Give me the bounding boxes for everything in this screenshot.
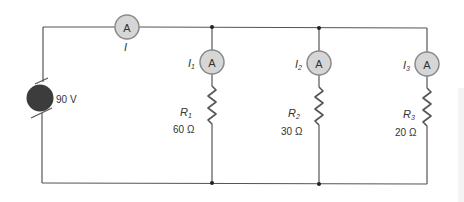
branch-1-ammeter-icon: A bbox=[200, 50, 224, 74]
branch-2-resistor-label: R2 bbox=[288, 107, 300, 120]
branch-1-ammeter-symbol: A bbox=[208, 57, 216, 69]
branch-1-resistor-icon bbox=[208, 86, 216, 124]
branch-3-ammeter-symbol: A bbox=[423, 59, 431, 71]
wires bbox=[42, 27, 427, 184]
branch-3-current-subscript: 3 bbox=[406, 65, 410, 72]
battery-icon bbox=[27, 78, 54, 118]
branch-1-resistor-label: R1 bbox=[180, 106, 192, 119]
branch-3-resistor-subscript: 3 bbox=[411, 114, 415, 121]
branch-2-current-subscript: 2 bbox=[297, 64, 302, 71]
branch-3-resistor-label: R3 bbox=[403, 108, 415, 121]
branch-2-ammeter-icon: A bbox=[307, 51, 331, 75]
branch-1-resistance: 60 Ω bbox=[173, 124, 195, 135]
junction-top-2 bbox=[317, 26, 321, 30]
branch-3-resistance: 20 Ω bbox=[395, 127, 417, 138]
branch-2-resistor-symbol: R bbox=[288, 107, 296, 119]
junction-bottom-2 bbox=[317, 182, 321, 186]
circuit-svg: 90 V A I A I1 A I2 A I3 bbox=[0, 0, 464, 202]
main-ammeter-symbol: A bbox=[123, 22, 131, 34]
branch-3-resistor-symbol: R bbox=[403, 108, 411, 120]
branch-3-ammeter-icon: A bbox=[415, 52, 439, 76]
branch-2-resistor-icon bbox=[315, 87, 323, 125]
branch-2-resistance: 30 Ω bbox=[281, 126, 303, 137]
branch-2-current-label: I2 bbox=[295, 58, 302, 71]
source-voltage-label: 90 V bbox=[56, 94, 77, 105]
circuit-diagram: 90 V A I A I1 A I2 A I3 bbox=[0, 0, 464, 202]
branch-1-resistor-subscript: 1 bbox=[188, 112, 192, 119]
branch-3-resistor-icon bbox=[423, 88, 431, 126]
branch-3-current-label: I3 bbox=[403, 59, 410, 72]
branch-2-resistor-subscript: 2 bbox=[295, 113, 300, 120]
junction-top-1 bbox=[210, 25, 214, 29]
branch-1-current-label: I1 bbox=[188, 57, 195, 70]
branch-1-resistor-symbol: R bbox=[180, 106, 188, 118]
branch-1-current-subscript: 1 bbox=[191, 63, 195, 70]
branch-2-ammeter-symbol: A bbox=[315, 58, 323, 70]
main-current-label: I bbox=[124, 41, 127, 53]
junction-dots bbox=[210, 25, 321, 186]
main-ammeter-icon: A bbox=[115, 15, 139, 39]
junction-bottom-1 bbox=[210, 181, 214, 185]
